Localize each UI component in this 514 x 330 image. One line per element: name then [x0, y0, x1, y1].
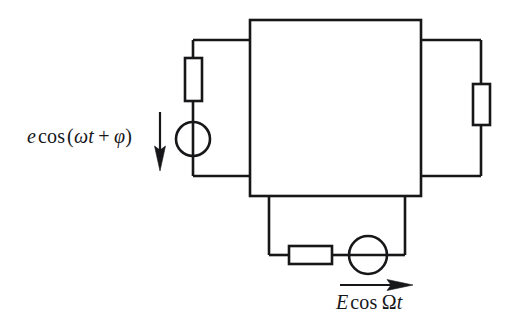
bottom-source-amplitude: E: [336, 291, 348, 313]
left-resistor: [185, 58, 202, 101]
circuit-schematic: [0, 0, 514, 330]
bottom-source-time: t: [397, 291, 403, 313]
bottom-source-function: cos: [350, 291, 377, 313]
right-resistor: [473, 84, 490, 125]
central-block: [250, 20, 421, 196]
bottom-source-label: E cos Ωt: [336, 292, 403, 312]
left-source-amplitude: e: [27, 125, 36, 147]
bottom-source-omega: Ω: [382, 291, 397, 313]
left-source-close-paren: ): [125, 125, 132, 147]
left-source-plus: +: [98, 125, 109, 147]
left-source-label: e cos (ωt + φ): [27, 126, 132, 146]
left-source-function: cos: [38, 125, 65, 147]
left-source-open-paren: (: [67, 125, 74, 147]
bottom-source-arrow-head: [387, 280, 413, 291]
circuit-diagram-figure: e cos (ωt + φ) E cos Ωt: [0, 0, 514, 330]
left-source-omega: ω: [74, 125, 88, 147]
bottom-resistor: [289, 246, 332, 264]
left-source-arrow-head: [155, 146, 166, 171]
left-source-phase: φ: [114, 125, 125, 147]
